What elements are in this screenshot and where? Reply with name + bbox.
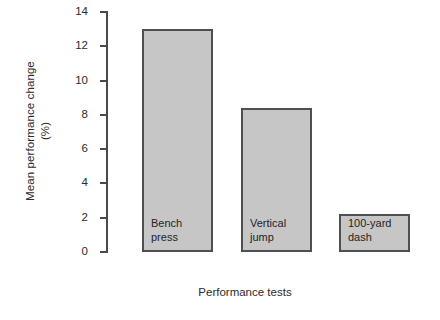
y-axis-tick-label: 14 <box>75 6 88 18</box>
y-axis-title-line1: Mean performance change <box>24 61 36 201</box>
y-axis <box>98 12 108 252</box>
bar-label-line2: press <box>151 231 182 245</box>
x-axis-title: Performance tests <box>62 286 428 298</box>
y-axis-tick-label: 6 <box>82 143 88 155</box>
y-axis-tick-label: 12 <box>75 41 88 53</box>
y-axis-tick-mark <box>100 80 108 82</box>
y-axis-tick-mark <box>100 114 108 116</box>
y-axis-tick-mark <box>100 148 108 150</box>
bar-label: Benchpress <box>151 217 182 244</box>
bar-label-line2: jump <box>250 231 286 245</box>
y-axis-tick-mark <box>100 217 108 219</box>
bar-chart-figure: Mean performance change (%) 02468101214 … <box>0 0 440 320</box>
y-axis-title: Mean performance change (%) <box>6 0 70 262</box>
y-axis-tick-mark <box>100 182 108 184</box>
plot-area: 02468101214 BenchpressVerticaljump100-ya… <box>62 12 428 262</box>
bar-label-line1: 100-yard <box>348 217 391 229</box>
y-axis-tick-mark <box>100 45 108 47</box>
bar-series: BenchpressVerticaljump100-yarddash <box>128 12 424 252</box>
y-axis-tick-labels: 02468101214 <box>62 12 88 252</box>
y-axis-tick-label: 2 <box>82 212 88 224</box>
bar-label-line1: Bench <box>151 217 182 229</box>
y-axis-tick-label: 4 <box>82 178 88 190</box>
y-axis-tick-mark <box>100 11 108 13</box>
bar-label-line2: dash <box>348 231 391 245</box>
bar-label: Verticaljump <box>250 217 286 244</box>
y-axis-tick-mark <box>100 251 108 253</box>
bar-label-line1: Vertical <box>250 217 286 229</box>
bar: 100-yarddash <box>339 214 410 252</box>
bar: Benchpress <box>142 29 213 252</box>
y-axis-tick-label: 8 <box>82 109 88 121</box>
bar: Verticaljump <box>241 108 312 252</box>
bar-label: 100-yarddash <box>348 217 391 244</box>
y-axis-title-line2: (%) <box>38 61 53 201</box>
y-axis-tick-label: 0 <box>82 246 88 258</box>
y-axis-tick-label: 10 <box>75 75 88 87</box>
